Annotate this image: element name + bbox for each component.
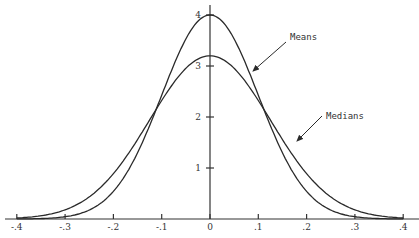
x-tick-label: -.3 xyxy=(59,222,71,232)
y-tick-label: 2 xyxy=(195,112,201,122)
medians-annotation: Medians xyxy=(297,111,364,141)
means-arrow xyxy=(253,42,286,71)
x-tick-label: .1 xyxy=(254,222,263,232)
x-tick-label: 0 xyxy=(207,222,213,232)
x-tick-label: .2 xyxy=(302,222,311,232)
means-annotation: Means xyxy=(253,32,317,71)
means-label: Means xyxy=(290,32,317,42)
chart: -.4-.3-.2-.10.1.2.3.4 1234 Means Medians xyxy=(0,0,419,238)
medians-arrow xyxy=(297,116,322,141)
x-tick-label: .4 xyxy=(399,222,408,232)
x-tick-label: -.2 xyxy=(108,222,120,232)
y-tick-label: 3 xyxy=(195,61,201,71)
x-tick-label: .3 xyxy=(351,222,360,232)
x-ticks: -.4-.3-.2-.10.1.2.3.4 xyxy=(11,214,408,232)
x-tick-label: -.4 xyxy=(11,222,23,232)
y-ticks: 1234 xyxy=(195,10,214,173)
medians-label: Medians xyxy=(326,111,364,121)
y-tick-label: 1 xyxy=(195,163,201,173)
x-tick-label: -.1 xyxy=(156,222,168,232)
